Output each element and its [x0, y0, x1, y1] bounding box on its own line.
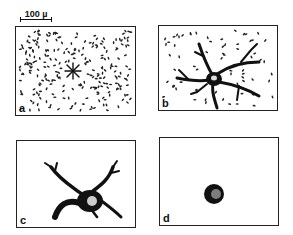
panel-c-cell-illustration — [17, 141, 135, 227]
scale-bar-label: 100 µ — [20, 9, 52, 19]
panel-d-label: d — [163, 212, 170, 224]
panel-a-cells-illustration — [16, 27, 135, 115]
panel-b-label: b — [162, 97, 169, 109]
scale-bar: 100 µ — [20, 9, 52, 20]
panel-a-label: a — [19, 102, 25, 114]
scale-bar-line — [20, 19, 52, 20]
panel-b: b — [158, 25, 278, 111]
panel-b-cell-illustration — [159, 26, 277, 110]
panel-c-label: c — [20, 214, 26, 226]
panel-d: d — [159, 137, 279, 226]
panel-a: a — [15, 26, 136, 116]
panel-d-cell-illustration — [160, 138, 278, 225]
panel-c: c — [16, 140, 136, 228]
